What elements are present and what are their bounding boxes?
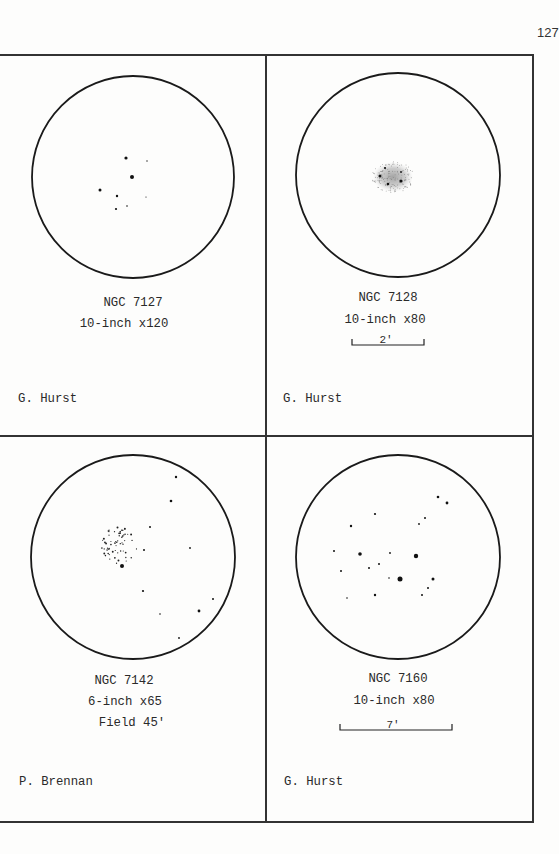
cluster-star — [102, 540, 103, 541]
cluster-star — [114, 531, 115, 532]
nebula-stipple — [387, 178, 388, 179]
instrument-label: 10-inch x80 — [344, 313, 425, 327]
star — [389, 552, 391, 554]
cluster-star — [103, 538, 105, 540]
nebula-stipple — [375, 181, 376, 182]
star — [387, 183, 390, 186]
nebula-stipple — [392, 171, 393, 172]
field-size-label: Field 45' — [99, 716, 165, 730]
nebula-stipple — [378, 175, 379, 176]
cluster-star — [105, 555, 107, 557]
cluster-star — [117, 552, 118, 553]
star — [384, 167, 386, 169]
star — [358, 552, 362, 556]
nebula-stipple — [406, 168, 407, 169]
star — [414, 554, 418, 558]
star — [378, 563, 380, 565]
nebula-stipple — [394, 191, 395, 192]
nebula-stipple — [397, 167, 398, 168]
cluster-star — [122, 544, 123, 545]
cluster-star — [116, 541, 118, 543]
star — [99, 189, 102, 192]
star — [346, 597, 348, 599]
cluster-star — [107, 553, 109, 555]
cluster-star — [136, 548, 137, 549]
cluster-star — [109, 558, 110, 559]
nebula-stipple — [388, 173, 389, 174]
nebula-stipple — [372, 172, 373, 173]
cluster-star — [121, 542, 122, 543]
nebula-stipple — [391, 186, 392, 187]
cluster-star — [124, 534, 126, 536]
nebula-stipple — [385, 164, 386, 165]
nebula-stipple — [405, 180, 406, 181]
panel-ngc-7142-drawing — [31, 455, 235, 659]
nebula-stipple — [395, 179, 396, 180]
star — [142, 590, 144, 592]
star — [350, 525, 352, 527]
cluster-star — [116, 545, 117, 546]
nebula-stipple — [397, 179, 398, 180]
nebula-stipple — [381, 189, 382, 190]
nebula-stipple — [386, 191, 387, 192]
star — [374, 513, 376, 515]
nebula-stipple — [405, 169, 406, 170]
star — [374, 594, 376, 596]
nebula-stipple — [373, 173, 374, 174]
nebula-stipple — [403, 184, 404, 185]
star — [149, 526, 151, 528]
nebula-stipple — [408, 175, 409, 176]
nebula-stipple — [385, 165, 386, 166]
nebula-stipple — [379, 182, 380, 183]
cluster-star — [126, 560, 127, 561]
nebula-stipple — [381, 180, 382, 181]
star — [120, 564, 124, 568]
nebula-stipple — [384, 178, 385, 179]
nebula-stipple — [409, 179, 410, 180]
nebula-stipple — [390, 188, 391, 189]
nebula-stipple — [406, 165, 407, 166]
star — [388, 577, 390, 579]
nebula-stipple — [410, 183, 411, 184]
nebula-stipple — [402, 183, 403, 184]
nebula-stipple — [393, 161, 394, 162]
nebula-stipple — [382, 177, 383, 178]
cluster-star — [127, 534, 128, 535]
nebula-stipple — [384, 181, 385, 182]
nebula-stipple — [397, 172, 398, 173]
nebula-stipple — [405, 177, 406, 178]
nebula-stipple — [389, 176, 390, 177]
nebula-stipple — [395, 171, 396, 172]
nebula-stipple — [409, 182, 410, 183]
cluster-star — [123, 534, 124, 535]
nebula-stipple — [407, 174, 408, 175]
nebula-stipple — [395, 189, 396, 190]
cluster-star — [103, 553, 105, 555]
cluster-star — [115, 541, 116, 542]
nebula-stipple — [381, 174, 382, 175]
star — [145, 196, 146, 197]
nebula-stipple — [407, 169, 408, 170]
star — [379, 175, 382, 178]
nebula-stipple — [385, 184, 386, 185]
nebula-stipple — [394, 185, 395, 186]
star — [116, 195, 118, 197]
nebula-stipple — [401, 177, 402, 178]
nebula-stipple — [389, 164, 390, 165]
cluster-star — [119, 531, 121, 533]
object-name: NGC 7142 — [94, 674, 153, 688]
nebula-stipple — [381, 177, 382, 178]
star — [418, 523, 420, 525]
cluster-star — [117, 540, 118, 541]
nebula-stipple — [395, 191, 396, 192]
scale-bar-label: 7' — [386, 719, 399, 731]
cluster-star — [106, 549, 108, 551]
observer-name: G. Hurst — [18, 392, 77, 406]
star — [124, 156, 127, 159]
nebula-stipple — [378, 180, 379, 181]
nebula-stipple — [388, 164, 389, 165]
nebula-stipple — [382, 164, 383, 165]
nebula-stipple — [375, 177, 376, 178]
nebula-stipple — [383, 179, 384, 180]
nebula-stipple — [392, 164, 393, 165]
